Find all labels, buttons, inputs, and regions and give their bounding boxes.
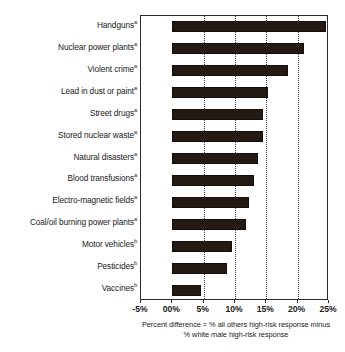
- category-label-text: Nuclear power plants: [58, 42, 134, 52]
- bar: [172, 219, 246, 230]
- footnote-marker: b: [134, 260, 137, 266]
- caption-line-2: % white male high-risk response: [130, 330, 342, 340]
- category-label: Street drugsa: [0, 109, 137, 118]
- footnote-marker: a: [134, 107, 137, 113]
- bar: [172, 109, 263, 120]
- bar: [172, 65, 288, 76]
- x-tick-label: 10%: [225, 304, 242, 315]
- bar: [172, 153, 257, 164]
- x-tick-label: 5%: [196, 304, 208, 315]
- tick-mark-6: [328, 300, 329, 303]
- footnote-marker: a: [134, 217, 137, 223]
- bars-layer: [141, 16, 327, 299]
- category-label: Coal/oil burning power plantsa: [0, 218, 137, 227]
- category-axis-labels: HandgunsaNuclear power plantsaViolent cr…: [0, 15, 137, 300]
- bar: [172, 21, 326, 32]
- category-label-text: Coal/oil burning power plants: [30, 217, 134, 227]
- x-tick-label: 25%: [319, 304, 336, 315]
- x-axis-caption: Percent difference = % all others high-r…: [130, 320, 342, 339]
- x-tick-label: 15%: [257, 304, 274, 315]
- category-label: Motor vehiclesb: [0, 240, 137, 249]
- tick-mark-2: [203, 300, 204, 303]
- bar: [172, 175, 253, 186]
- category-label: Vaccinesb: [0, 284, 137, 293]
- category-label-text: Motor vehicles: [82, 239, 134, 249]
- footnote-marker: a: [134, 195, 137, 201]
- category-label-text: Pesticides: [97, 261, 134, 271]
- footnote-marker: a: [134, 63, 137, 69]
- category-label-text: Vaccines: [102, 283, 134, 293]
- category-label: Lead in dust or painta: [0, 87, 137, 96]
- category-label-text: Lead in dust or paint: [61, 86, 134, 96]
- tick-mark-1: [171, 300, 172, 303]
- x-tick-label: 00%: [163, 304, 180, 315]
- category-label: Handgunsa: [0, 21, 137, 30]
- footnote-marker: a: [134, 129, 137, 135]
- x-tick-label: 20%: [288, 304, 305, 315]
- bar: [172, 131, 263, 142]
- tick-mark-3: [234, 300, 235, 303]
- category-label-text: Natural disasters: [73, 152, 134, 162]
- footnote-marker: a: [134, 85, 137, 91]
- tick-mark-4: [265, 300, 266, 303]
- category-label-text: Electro-magnetic fields: [52, 195, 134, 205]
- bar: [172, 263, 227, 274]
- category-label-text: Street drugs: [90, 108, 134, 118]
- plot-area: [140, 15, 328, 300]
- category-label: Natural disastersa: [0, 153, 137, 162]
- footnote-marker: a: [134, 19, 137, 25]
- bar: [172, 43, 304, 54]
- x-axis-tick-labels: -5%00%5%10%15%20%25%: [0, 304, 345, 316]
- bar: [172, 241, 232, 252]
- category-label-text: Violent crime: [87, 64, 134, 74]
- category-label-text: Handguns: [97, 20, 134, 30]
- footnote-marker: a: [134, 41, 137, 47]
- footnote-marker: a: [134, 151, 137, 157]
- category-label-text: Stored nuclear waste: [58, 130, 134, 140]
- category-label: Electro-magnetic fieldsa: [0, 196, 137, 205]
- bar: [172, 87, 268, 98]
- bar-chart: HandgunsaNuclear power plantsaViolent cr…: [0, 0, 345, 352]
- footnote-marker: b: [134, 282, 137, 288]
- category-label: Nuclear power plantsa: [0, 43, 137, 52]
- footnote-marker: a: [134, 173, 137, 179]
- tick-mark-5: [297, 300, 298, 303]
- category-label: Stored nuclear wastea: [0, 131, 137, 140]
- footnote-marker: b: [134, 238, 137, 244]
- category-label: Pesticidesb: [0, 262, 137, 271]
- bar: [172, 197, 249, 208]
- category-label: Blood transfusionsa: [0, 174, 137, 183]
- tick-mark-0: [140, 300, 141, 303]
- category-label: Violent crimea: [0, 65, 137, 74]
- category-label-text: Blood transfusions: [68, 173, 134, 183]
- x-tick-label: -5%: [132, 304, 147, 315]
- caption-line-1: Percent difference = % all others high-r…: [130, 320, 342, 330]
- bar: [172, 285, 201, 296]
